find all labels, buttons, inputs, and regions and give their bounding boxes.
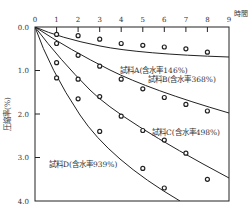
x-tick-labels: 0 1 2 3 4 5 6 7 8 9 [33,16,231,24]
chart: 0 1 2 3 4 5 6 7 8 9 時間 0.0 1.0 2.0 3.0 4… [0,0,252,219]
svg-text:8: 8 [205,16,209,24]
y-tick-labels: 0.0 1.0 2.0 3.0 4.0 [18,24,29,206]
svg-text:3.0: 3.0 [18,154,29,162]
y-axis-label: 圧縮率(%) [2,97,12,131]
svg-text:9: 9 [227,16,231,24]
curve-c [35,27,229,178]
svg-text:6: 6 [162,16,167,24]
x-axis-label: 時間 [234,10,248,18]
svg-text:0.0: 0.0 [18,24,29,32]
y-tick-marks [35,71,40,158]
curve-a [35,27,229,57]
svg-text:3: 3 [97,16,101,24]
series-b-label: 試料B(含水率368%) [148,74,216,84]
series-d-label: 試料D(含水率939%) [49,159,117,169]
plot-frame [35,27,229,201]
series-c-label: 試料C(含水率498%) [152,127,220,137]
svg-text:7: 7 [184,16,188,24]
series-a-label: 試料A(含水率146%) [120,65,188,75]
svg-text:1: 1 [54,16,58,24]
svg-text:0: 0 [33,16,37,24]
svg-text:1.0: 1.0 [18,67,29,75]
x-tick-marks [57,27,208,32]
svg-text:2.0: 2.0 [18,111,29,119]
svg-text:5: 5 [141,16,145,24]
svg-text:2: 2 [76,16,80,24]
svg-text:4.0: 4.0 [18,198,29,206]
svg-text:4: 4 [119,16,124,24]
